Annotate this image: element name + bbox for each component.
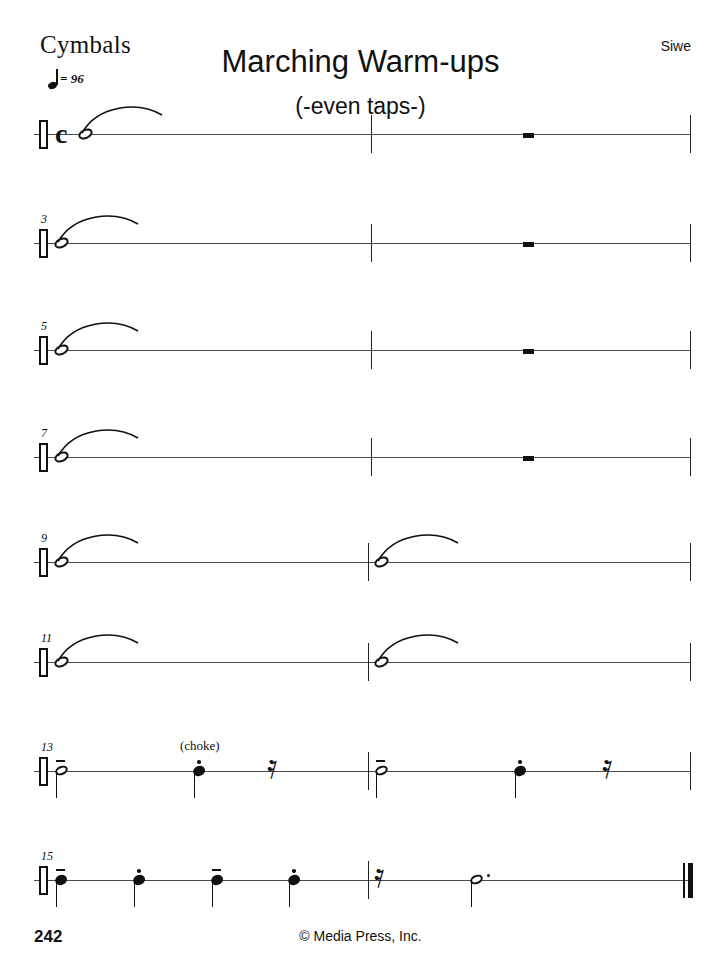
percussion-clef-icon xyxy=(39,648,48,677)
barline xyxy=(371,331,372,369)
percussion-clef-icon xyxy=(39,866,48,895)
quarter-rest: 𝄿 xyxy=(267,750,277,784)
percussion-clef-icon xyxy=(39,336,48,365)
barline xyxy=(368,643,369,681)
slur xyxy=(80,99,170,139)
whole-rest xyxy=(523,349,534,354)
barline xyxy=(371,438,372,476)
measure-number: 13 xyxy=(41,740,53,755)
staff-system-5: 9 xyxy=(0,507,721,617)
measure-number: 11 xyxy=(41,631,52,646)
barline xyxy=(690,438,691,476)
sheet-music-page: Cymbals Marching Warm-ups (-even taps-) … xyxy=(0,0,721,966)
barline xyxy=(371,224,372,262)
dotted-half-note xyxy=(470,869,486,895)
staff-system-6: 11 xyxy=(0,607,721,717)
barline xyxy=(690,543,691,581)
percussion-clef-icon xyxy=(39,757,48,786)
common-time-icon: c xyxy=(55,119,67,149)
quarter-rest: 𝄿 xyxy=(602,750,612,784)
slur xyxy=(56,527,146,567)
barline xyxy=(690,331,691,369)
slur xyxy=(56,315,146,355)
slur xyxy=(376,527,466,567)
quarter-note xyxy=(211,869,227,895)
measure-number: 15 xyxy=(41,849,53,864)
staff-system-1: c xyxy=(0,79,721,189)
slur xyxy=(56,422,146,462)
half-note xyxy=(55,760,71,786)
barline xyxy=(371,115,372,153)
measure-number: 3 xyxy=(41,212,47,227)
percussion-clef-icon xyxy=(39,548,48,577)
final-barline-thin xyxy=(683,863,685,898)
composer-name: Siwe xyxy=(661,38,691,54)
whole-rest xyxy=(523,242,534,247)
barline xyxy=(690,643,691,681)
staff-system-2: 3 xyxy=(0,188,721,298)
staff-system-4: 7 xyxy=(0,402,721,512)
page-title: Marching Warm-ups xyxy=(0,44,721,80)
final-barline-thick xyxy=(688,863,693,898)
whole-rest xyxy=(523,456,534,461)
quarter-note xyxy=(133,869,149,895)
barline xyxy=(368,861,369,899)
barline xyxy=(690,115,691,153)
barline xyxy=(368,752,369,790)
barline xyxy=(690,224,691,262)
barline xyxy=(368,543,369,581)
percussion-clef-icon xyxy=(39,120,48,149)
augmentation-dot xyxy=(487,874,490,877)
measure-number: 7 xyxy=(41,426,47,441)
staff-system-3: 5 xyxy=(0,295,721,405)
slur xyxy=(376,627,466,667)
quarter-note xyxy=(55,869,71,895)
staff-system-7: 13 (choke) 𝄿 𝄿 xyxy=(0,716,721,826)
staff-system-8: 15 𝄿 xyxy=(0,825,721,935)
quarter-note xyxy=(288,869,304,895)
choke-annotation: (choke) xyxy=(180,738,220,754)
quarter-note xyxy=(514,760,530,786)
percussion-clef-icon xyxy=(39,443,48,472)
slur xyxy=(56,208,146,248)
quarter-note xyxy=(193,760,209,786)
measure-number: 9 xyxy=(41,531,47,546)
measure-number: 5 xyxy=(41,319,47,334)
quarter-rest: 𝄿 xyxy=(374,859,384,893)
slur xyxy=(56,627,146,667)
barline xyxy=(690,752,691,790)
whole-rest xyxy=(523,133,534,138)
half-note xyxy=(375,760,391,786)
copyright-notice: © Media Press, Inc. xyxy=(0,928,721,944)
percussion-clef-icon xyxy=(39,229,48,258)
staff-line xyxy=(34,771,691,772)
